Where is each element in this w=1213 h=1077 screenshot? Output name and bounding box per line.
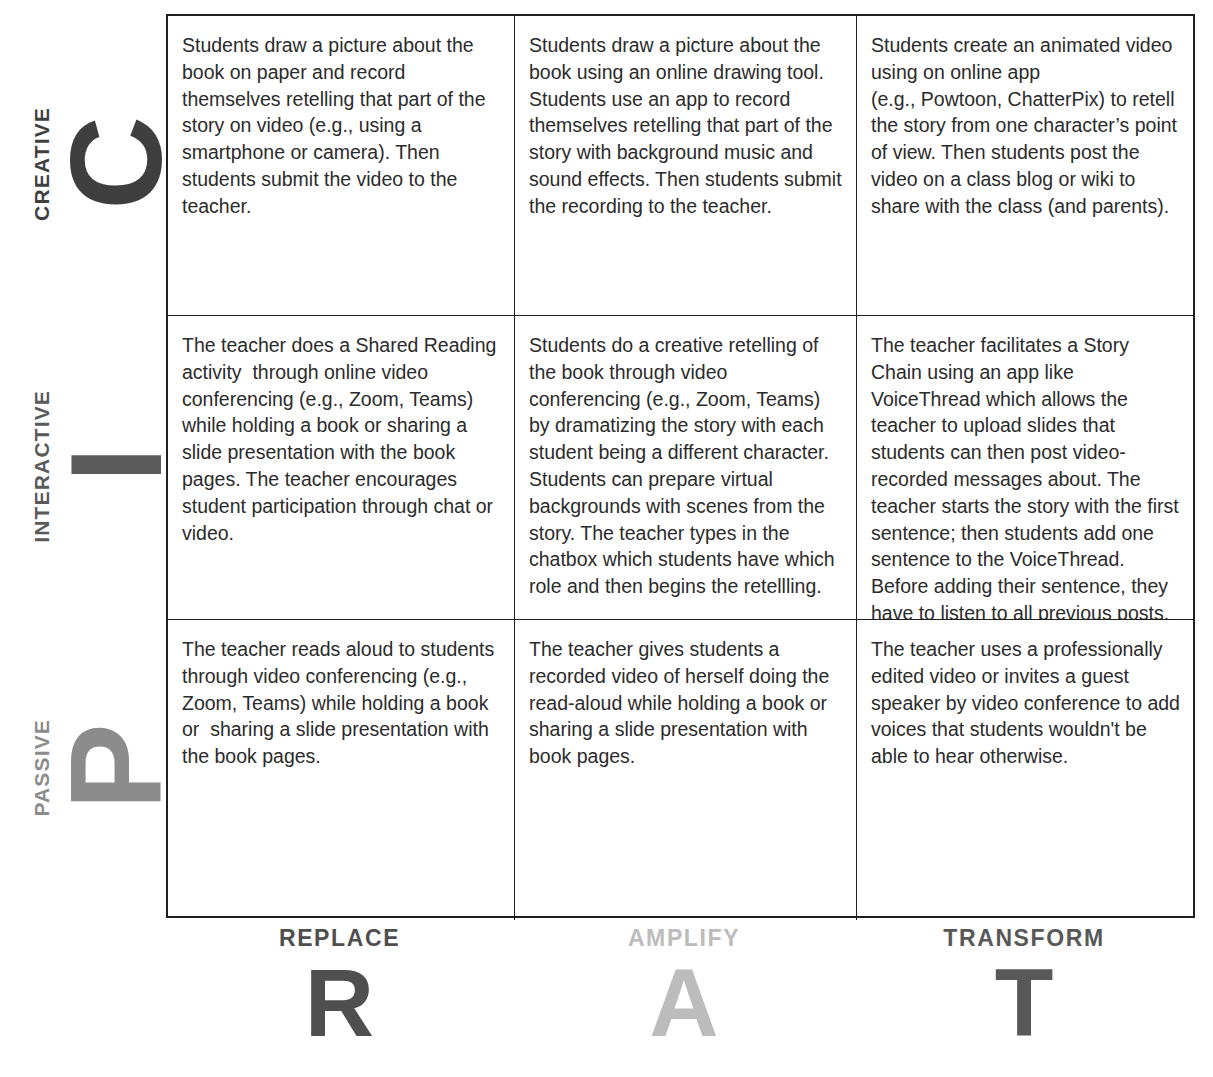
cell-passive-amplify: The teacher gives students a recorded vi…	[515, 620, 857, 920]
cell-text: The teacher does a Shared Reading activi…	[182, 332, 500, 546]
column-axis-letter-t: T	[995, 954, 1054, 1052]
column-axis-letter-r: R	[305, 954, 374, 1052]
row-axis-creative: CREATIVE C	[0, 14, 166, 314]
row-axis: CREATIVE C INTERACTIVE I PASSIVE P	[0, 14, 166, 918]
column-axis-amplify: AMPLIFY A	[513, 925, 855, 1077]
row-axis-letter-p: P	[51, 726, 181, 810]
column-axis-label-amplify: AMPLIFY	[628, 925, 740, 952]
cell-creative-amplify: Students draw a picture about the book u…	[515, 16, 857, 316]
column-axis-label-transform: TRANSFORM	[943, 925, 1104, 952]
row-axis-interactive: INTERACTIVE I	[0, 314, 166, 618]
cell-creative-transform: Students create an animated video using …	[857, 16, 1195, 316]
row-axis-passive: PASSIVE P	[0, 618, 166, 918]
cell-interactive-transform: The teacher facilitates a Story Chain us…	[857, 316, 1195, 620]
cell-text: Students do a creative retelling of the …	[529, 332, 842, 600]
cell-passive-replace: The teacher reads aloud to students thro…	[168, 620, 515, 920]
column-axis-replace: REPLACE R	[166, 925, 513, 1077]
row-axis-letter-i: I	[51, 449, 181, 483]
row-axis-glyph-wrap-interactive: I	[66, 401, 166, 531]
cell-interactive-amplify: Students do a creative retelling of the …	[515, 316, 857, 620]
cell-text: The teacher reads aloud to students thro…	[182, 636, 500, 770]
cell-creative-replace: Students draw a picture about the book o…	[168, 16, 515, 316]
cell-text: The teacher gives students a recorded vi…	[529, 636, 842, 770]
column-axis-transform: TRANSFORM T	[855, 925, 1193, 1077]
row-axis-glyph-wrap-creative: C	[66, 99, 166, 229]
cell-text: The teacher uses a professionally edited…	[871, 636, 1181, 770]
cell-passive-transform: The teacher uses a professionally edited…	[857, 620, 1195, 920]
cell-interactive-replace: The teacher does a Shared Reading activi…	[168, 316, 515, 620]
column-axis-letter-a: A	[649, 954, 718, 1052]
cell-text: Students create an animated video using …	[871, 32, 1181, 220]
cell-text: Students draw a picture about the book o…	[182, 32, 500, 220]
matrix-grid: Students draw a picture about the book o…	[166, 14, 1195, 918]
row-axis-glyph-wrap-passive: P	[66, 703, 166, 833]
column-axis: REPLACE R AMPLIFY A TRANSFORM T	[166, 925, 1195, 1077]
cell-text: The teacher facilitates a Story Chain us…	[871, 332, 1181, 620]
rat-pic-matrix-page: CREATIVE C INTERACTIVE I PASSIVE P Stude…	[0, 0, 1213, 1077]
column-axis-label-replace: REPLACE	[279, 925, 400, 952]
cell-text: Students draw a picture about the book u…	[529, 32, 842, 220]
row-axis-letter-c: C	[51, 118, 181, 209]
